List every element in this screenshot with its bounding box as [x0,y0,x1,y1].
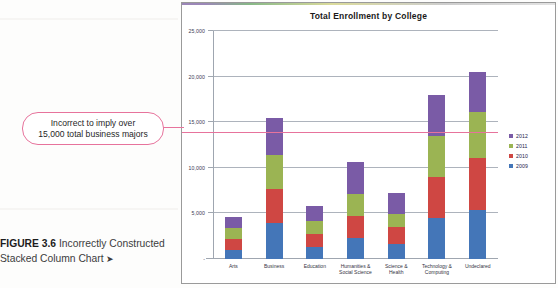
bar-series-layer: ArtsBusinessEducationHumanities &Social … [213,31,498,259]
bar-segment-2012[interactable] [469,72,486,112]
bar-segment-2009[interactable] [388,244,405,259]
legend-label-2011: 2011 [516,143,528,149]
x-axis-label: Education [292,263,338,269]
stacked-bar[interactable] [306,206,323,259]
chart-legend: 2012201120102009 [509,131,551,171]
bar-segment-2012[interactable] [428,95,445,136]
bar-segment-2011[interactable] [266,155,283,189]
x-axis-label: Undeclared [455,263,501,269]
figure-caption: FIGURE 3.6 Incorrectly Constructed Stack… [0,236,176,267]
bar-segment-2009[interactable] [225,250,242,259]
legend-label-2009: 2009 [516,163,528,169]
legend-label-2012: 2012 [516,133,528,139]
legend-label-2010: 2010 [516,153,528,159]
y-axis-label-5000: 5,000 [192,210,205,216]
bar-segment-2010[interactable] [306,234,323,246]
bar-segment-2010[interactable] [388,227,405,244]
figure-caption-prefix: FIGURE 3.6 [0,238,56,249]
stacked-bar[interactable] [225,217,242,259]
scan-artifact [0,208,178,210]
plot-area: -5,00010,00015,00020,00025,000 ArtsBusin… [213,31,498,259]
reference-line [182,132,498,133]
scan-artifact [0,18,178,20]
callout-line-1: Incorrect to imply over [51,118,136,128]
chart-title: Total Enrollment by College [182,11,555,21]
x-axis-label: Humanities &Social Science [333,263,379,275]
stacked-bar[interactable] [469,72,486,259]
bar-group-arts[interactable]: Arts [213,31,254,259]
bar-segment-2011[interactable] [306,221,323,234]
bar-segment-2011[interactable] [428,136,445,177]
bar-group-technology-computing[interactable]: Technology &Computing [417,31,458,259]
bar-segment-2010[interactable] [347,216,364,238]
legend-swatch-2010 [509,154,513,158]
bar-segment-2012[interactable] [266,118,283,155]
bar-segment-2009[interactable] [469,210,486,259]
legend-item-2012[interactable]: 2012 [509,131,551,141]
x-axis-label: Arts [210,263,256,269]
bar-segment-2011[interactable] [225,228,242,239]
y-axis-label-15000: 15,000 [189,119,205,125]
stacked-bar[interactable] [388,193,405,259]
bar-segment-2010[interactable] [225,239,242,249]
bar-segment-2012[interactable] [347,162,364,194]
y-axis-label-10000: 10,000 [189,165,205,171]
y-axis-label-20000: 20,000 [189,74,205,80]
x-axis-label: Business [251,263,297,269]
callout-text: Incorrect to imply over 15,000 total bus… [33,118,152,140]
legend-swatch-2011 [509,144,513,148]
bar-segment-2009[interactable] [266,223,283,259]
stacked-bar[interactable] [428,95,445,259]
legend-item-2011[interactable]: 2011 [509,141,551,151]
bar-segment-2012[interactable] [225,217,242,228]
bar-segment-2011[interactable] [388,214,405,227]
chart-figure: Total Enrollment by College -5,00010,000… [181,2,556,284]
legend-swatch-2012 [509,134,513,138]
bar-segment-2012[interactable] [388,193,405,214]
arrow-icon: ➤ [106,254,114,264]
x-axis-label: Technology &Computing [414,263,460,275]
callout-line-2: 15,000 total business majors [38,129,147,139]
bar-segment-2012[interactable] [306,206,323,221]
callout-bubble: Incorrect to imply over 15,000 total bus… [22,112,164,145]
bar-segment-2009[interactable] [428,218,445,259]
bar-group-humanities-social-science[interactable]: Humanities &Social Science [335,31,376,259]
bar-segment-2010[interactable] [428,177,445,218]
bar-group-business[interactable]: Business [254,31,295,259]
x-axis-label: Science &Health [373,263,419,275]
bar-segment-2010[interactable] [469,158,486,210]
bar-segment-2010[interactable] [266,189,283,223]
stacked-bar[interactable] [266,118,283,259]
bar-group-education[interactable]: Education [294,31,335,259]
bar-segment-2009[interactable] [306,247,323,259]
y-axis-label-0: - [203,256,205,262]
bar-group-science-health[interactable]: Science &Health [376,31,417,259]
callout-connector-line [162,127,184,128]
bar-segment-2011[interactable] [469,112,486,158]
bar-segment-2009[interactable] [347,238,364,259]
legend-item-2009[interactable]: 2009 [509,161,551,171]
legend-swatch-2009 [509,164,513,168]
chart-top-accent-bar [182,3,555,5]
bar-group-undeclared[interactable]: Undeclared [457,31,498,259]
y-axis-label-25000: 25,000 [189,28,205,34]
stacked-bar[interactable] [347,162,364,259]
bar-segment-2011[interactable] [347,194,364,216]
legend-item-2010[interactable]: 2010 [509,151,551,161]
